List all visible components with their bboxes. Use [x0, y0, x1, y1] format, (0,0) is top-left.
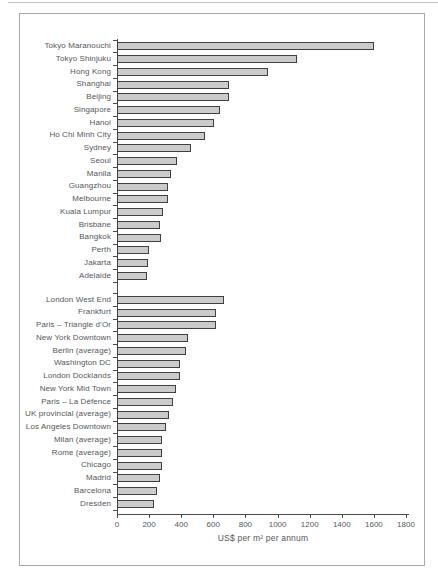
category-tick — [113, 382, 117, 383]
bar — [117, 334, 188, 342]
bar-area — [117, 270, 438, 283]
category-label: Seoul — [0, 155, 117, 168]
bar-area — [117, 257, 438, 270]
category-tick — [113, 306, 117, 307]
bar-row: Tokyo Maranouchi — [0, 40, 438, 53]
category-label: Ho Chi Minh City — [0, 129, 117, 142]
bar — [117, 398, 173, 406]
category-tick — [113, 91, 117, 92]
bar-area — [117, 193, 438, 206]
bar-row: Kuala Lumpur — [0, 206, 438, 219]
bar-area — [117, 408, 438, 421]
bar-row: Rome (average) — [0, 447, 438, 460]
bar-row: Madrid — [0, 472, 438, 485]
category-tick — [113, 344, 117, 345]
category-label: Brisbane — [0, 219, 117, 232]
bar-area — [117, 383, 438, 396]
bar-row: Chicago — [0, 459, 438, 472]
category-tick — [113, 370, 117, 371]
bar-row: New York Mid Town — [0, 383, 438, 396]
bar-area — [117, 370, 438, 383]
category-label: Melbourne — [0, 193, 117, 206]
category-tick — [113, 103, 117, 104]
bar — [117, 81, 229, 89]
bar-row: Hong Kong — [0, 66, 438, 79]
bar — [117, 132, 205, 140]
category-label: Hanoi — [0, 117, 117, 130]
bar-row: Jakarta — [0, 257, 438, 270]
bar — [117, 119, 214, 127]
bar — [117, 321, 216, 329]
bar-group-1: Tokyo MaranouchiTokyo ShinjukuHong KongS… — [0, 40, 438, 282]
category-label: New York Downtown — [0, 332, 117, 345]
category-tick — [113, 395, 117, 396]
bar — [117, 411, 169, 419]
bar-area — [117, 447, 438, 460]
category-tick — [113, 256, 117, 257]
x-tick-mark — [213, 514, 214, 518]
category-tick — [113, 421, 117, 422]
category-tick — [113, 484, 117, 485]
bar-row: Los Angeles Downtown — [0, 421, 438, 434]
category-tick — [113, 510, 117, 511]
category-tick — [113, 129, 117, 130]
bar-area — [117, 180, 438, 193]
bar-area — [117, 485, 438, 498]
bar-area — [117, 294, 438, 307]
bar-row: Barcelona — [0, 485, 438, 498]
x-tick-label: 1800 — [386, 520, 426, 529]
bar-row: Adelaide — [0, 270, 438, 283]
bar-row: UK provincial (average) — [0, 408, 438, 421]
bar-row: Singapore — [0, 104, 438, 117]
bar — [117, 183, 168, 191]
bar-area — [117, 498, 438, 511]
category-tick — [113, 167, 117, 168]
category-label: Perth — [0, 244, 117, 257]
category-label: Madrid — [0, 472, 117, 485]
bar — [117, 347, 186, 355]
bar — [117, 360, 180, 368]
bar-area — [117, 66, 438, 79]
category-tick — [113, 293, 117, 294]
bar-area — [117, 244, 438, 257]
bar-area — [117, 396, 438, 409]
bar-row: Guangzhou — [0, 180, 438, 193]
bar-area — [117, 129, 438, 142]
bar-area — [117, 155, 438, 168]
bar-row: Washington DC — [0, 357, 438, 370]
category-label: Dresden — [0, 498, 117, 511]
category-label: Sydney — [0, 142, 117, 155]
category-tick — [113, 193, 117, 194]
bar-row: Manila — [0, 168, 438, 181]
x-tick-mark — [310, 514, 311, 518]
bar — [117, 208, 163, 216]
bar — [117, 170, 171, 178]
category-tick — [113, 357, 117, 358]
category-label: Barcelona — [0, 485, 117, 498]
bar — [117, 474, 160, 482]
category-tick — [113, 244, 117, 245]
bar — [117, 42, 374, 50]
x-axis: US$ per m² per annum 0200400600800100012… — [0, 514, 438, 559]
bar-row: Ho Chi Minh City — [0, 129, 438, 142]
bar-row: Paris – La Défence — [0, 396, 438, 409]
bar-row: Milan (average) — [0, 434, 438, 447]
bar-row: Bangkok — [0, 231, 438, 244]
x-tick-mark — [374, 514, 375, 518]
bar — [117, 195, 168, 203]
x-tick-mark — [342, 514, 343, 518]
bar-area — [117, 78, 438, 91]
bar — [117, 296, 224, 304]
bar-area — [117, 206, 438, 219]
bar-row: Dresden — [0, 498, 438, 511]
category-tick — [113, 459, 117, 460]
category-tick — [113, 65, 117, 66]
bar-row: Seoul — [0, 155, 438, 168]
bar-area — [117, 104, 438, 117]
x-tick-mark — [117, 514, 118, 518]
bar-row: Brisbane — [0, 219, 438, 232]
category-tick — [113, 142, 117, 143]
bar — [117, 55, 297, 63]
x-axis-line — [117, 514, 409, 515]
category-label: Frankfurt — [0, 306, 117, 319]
